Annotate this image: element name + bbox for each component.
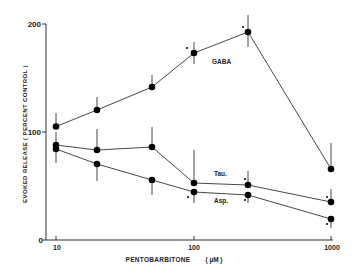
chart: 200 100 0 10 100 1000 PENTOBARBITONE ( µ… bbox=[0, 0, 357, 278]
label-tau: Tau. bbox=[214, 170, 227, 177]
label-asp: Asp. bbox=[214, 197, 228, 205]
x-tick-100: 100 bbox=[188, 244, 200, 251]
y-tick-100: 100 bbox=[28, 128, 42, 137]
y-tick-200: 200 bbox=[28, 20, 42, 29]
x-tick-10: 10 bbox=[53, 244, 61, 251]
x-axis-unit: ( µM ) bbox=[205, 256, 222, 264]
y-axis-label: EVOKED RELEASE ( PERCENT CONTROL ) bbox=[22, 65, 28, 203]
x-axis-label: PENTOBARBITONE bbox=[126, 256, 191, 263]
x-tick-1000: 1000 bbox=[324, 244, 340, 251]
label-gaba: GABA bbox=[212, 58, 231, 65]
y-tick-0: 0 bbox=[39, 236, 44, 245]
tau-points bbox=[53, 142, 335, 206]
